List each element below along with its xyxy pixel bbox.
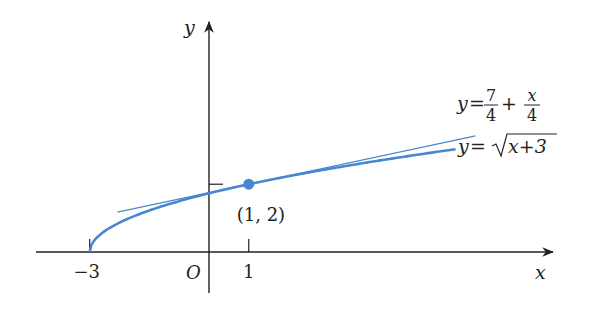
curve-eq-sign: = [470, 135, 486, 157]
tangent-lhs: y [456, 92, 468, 114]
frac1-numerator: 7 [486, 86, 496, 105]
curve-lhs: y [457, 135, 469, 157]
tangent-equation-label: y = 7 4 + x 4 [456, 86, 540, 125]
x-tick-label-1: 1 [243, 261, 254, 282]
y-axis-label: y [183, 16, 195, 38]
frac1-denominator: 4 [486, 106, 496, 125]
origin-label: O [186, 262, 201, 283]
tangent-eq-sign: = [469, 92, 485, 114]
x-axis-label: x [535, 261, 546, 283]
point-label: (1, 2) [237, 204, 285, 225]
frac2-numerator: x [527, 86, 536, 105]
curve-radicand: x+3 [508, 135, 547, 157]
point-of-tangency [243, 179, 254, 190]
curve-equation-label: y = x+3 [457, 134, 557, 157]
tangent-plus-sign: + [501, 92, 517, 114]
chart: x y O −3 1 (1, 2) y = 7 4 + x 4 y = x+3 [0, 0, 595, 311]
x-tick-label-neg3: −3 [73, 261, 100, 282]
sqrt-curve [90, 149, 456, 252]
frac2-denominator: 4 [527, 106, 537, 125]
